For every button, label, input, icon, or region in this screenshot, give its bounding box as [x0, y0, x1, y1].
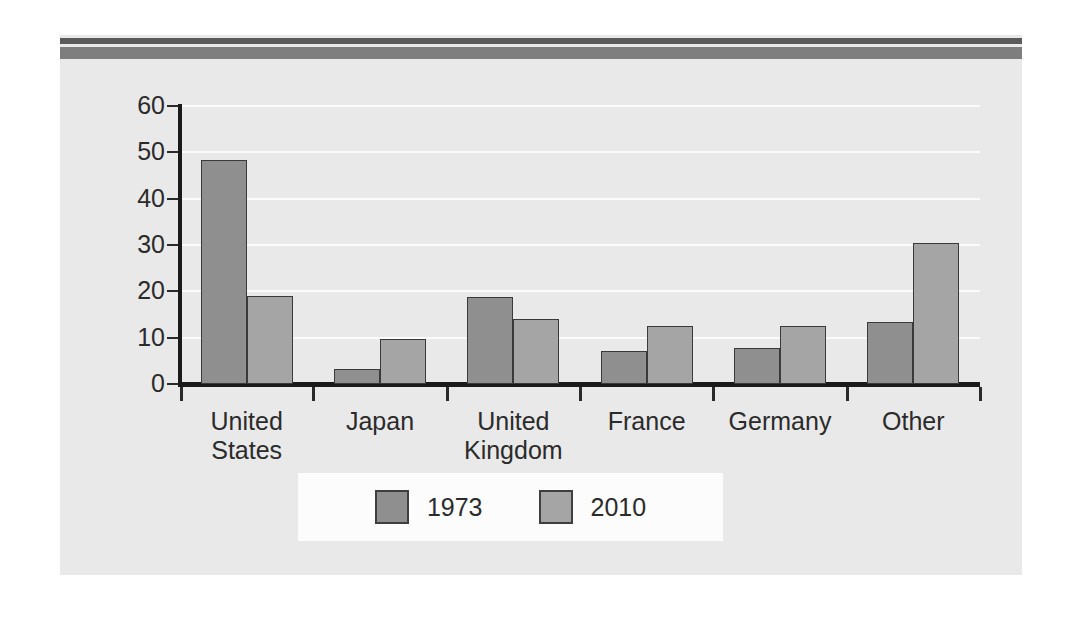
y-axis-line — [178, 104, 182, 386]
legend-swatch — [539, 490, 573, 524]
gridline — [180, 151, 980, 153]
y-axis-tick — [167, 244, 178, 246]
header-rule-thick — [60, 47, 1022, 59]
category-label-line: France — [580, 407, 713, 436]
bar — [247, 296, 293, 384]
gridline — [180, 105, 980, 107]
category-label: Germany — [713, 407, 846, 436]
category-label-line: Other — [847, 407, 980, 436]
x-axis-tick — [446, 387, 449, 401]
bar — [201, 160, 247, 384]
y-axis-tick-label: 20 — [103, 278, 165, 303]
y-axis-tick-label: 10 — [103, 325, 165, 350]
gridline — [180, 337, 980, 339]
x-axis-tick — [180, 387, 183, 401]
y-axis-tick-label: 40 — [103, 186, 165, 211]
gridline — [180, 198, 980, 200]
category-label: UnitedKingdom — [447, 407, 580, 465]
legend-swatch — [375, 490, 409, 524]
y-axis-tick-label: 30 — [103, 232, 165, 257]
category-label: France — [580, 407, 713, 436]
bar — [647, 326, 693, 384]
y-axis-tick-label: 50 — [103, 139, 165, 164]
legend-label: 1973 — [427, 495, 483, 520]
y-axis-tick-label: 0 — [103, 371, 165, 396]
bar — [867, 322, 913, 384]
bar — [601, 351, 647, 384]
legend-label: 2010 — [591, 495, 647, 520]
x-axis-tick — [579, 387, 582, 401]
chart-legend: 19732010 — [298, 473, 723, 541]
category-label-line: United — [180, 407, 313, 436]
category-label-line: Japan — [313, 407, 446, 436]
y-axis-tick — [167, 198, 178, 200]
bar — [734, 348, 780, 384]
y-axis-tick — [167, 105, 178, 107]
category-label-line: States — [180, 436, 313, 465]
category-label-line: Germany — [713, 407, 846, 436]
legend-item: 2010 — [539, 490, 647, 524]
chart-panel: 0102030405060 UnitedStatesJapanUnitedKin… — [60, 35, 1022, 575]
category-label-line: Kingdom — [447, 436, 580, 465]
x-axis-tick — [979, 387, 982, 401]
bar — [380, 339, 426, 384]
gridline — [180, 244, 980, 246]
legend-item: 1973 — [375, 490, 483, 524]
category-label: UnitedStates — [180, 407, 313, 465]
y-axis-tick — [167, 337, 178, 339]
x-axis-tick — [312, 387, 315, 401]
x-axis-tick — [712, 387, 715, 401]
header-rule-thin — [60, 38, 1022, 44]
y-axis-tick-label: 60 — [103, 93, 165, 118]
y-axis-tick — [167, 151, 178, 153]
y-axis-tick — [167, 383, 178, 385]
category-label-line: United — [447, 407, 580, 436]
bar — [780, 326, 826, 384]
x-axis-tick — [846, 387, 849, 401]
bar — [467, 297, 513, 384]
gridline — [180, 290, 980, 292]
bar — [513, 319, 559, 384]
bar — [334, 369, 380, 384]
bar — [913, 243, 959, 384]
y-axis-tick — [167, 290, 178, 292]
category-label: Other — [847, 407, 980, 436]
category-label: Japan — [313, 407, 446, 436]
